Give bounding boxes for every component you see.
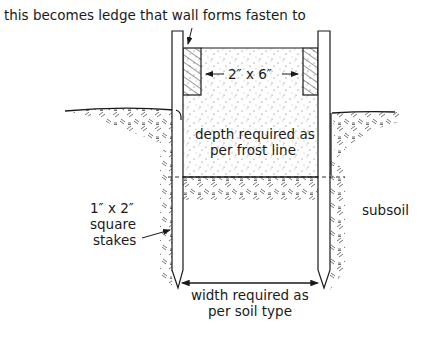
right-stake bbox=[318, 31, 330, 288]
left-stake bbox=[172, 31, 183, 288]
depth-label-line2: per frost line bbox=[210, 142, 296, 158]
stakes-label-line1: 1″ x 2″ bbox=[90, 200, 134, 216]
width-label-line2: per soil type bbox=[208, 303, 292, 319]
width-label-line1: width required as bbox=[191, 287, 309, 303]
ledge-leader bbox=[188, 28, 192, 44]
left-2x6-board bbox=[183, 48, 201, 95]
footing-diagram: this becomes ledge that wall forms faste… bbox=[0, 0, 436, 339]
stakes-label-line3: stakes bbox=[93, 232, 136, 248]
stakes-label-line2: square bbox=[90, 216, 136, 232]
depth-label-line1: depth required as bbox=[195, 126, 315, 142]
subsoil-label: subsoil bbox=[362, 202, 409, 218]
ledge-label: this becomes ledge that wall forms faste… bbox=[4, 7, 306, 23]
right-2x6-board bbox=[303, 48, 318, 95]
board-size-label: 2″ x 6″ bbox=[228, 66, 272, 82]
